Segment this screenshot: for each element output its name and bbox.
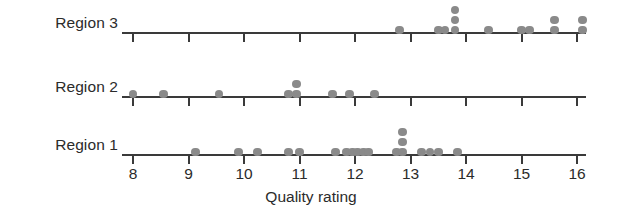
data-point xyxy=(395,26,404,35)
data-point xyxy=(191,148,200,157)
x-tick-label: 10 xyxy=(235,165,252,183)
data-point xyxy=(550,16,559,25)
axis-tick xyxy=(465,97,467,106)
axis-tick xyxy=(465,155,467,164)
axis-tick xyxy=(188,33,190,42)
data-point xyxy=(234,148,243,157)
axis-tick xyxy=(354,97,356,106)
axis-tick xyxy=(354,155,356,164)
data-point xyxy=(451,6,460,15)
data-point xyxy=(345,90,354,99)
x-tick-label: 13 xyxy=(402,165,419,183)
axis-tick xyxy=(576,97,578,106)
data-point xyxy=(451,16,460,25)
x-tick-label: 11 xyxy=(291,165,307,183)
x-tick-label: 16 xyxy=(568,165,585,183)
x-tick-label: 12 xyxy=(346,165,363,183)
axis-tick xyxy=(576,33,578,42)
x-tick-label: 14 xyxy=(457,165,474,183)
data-point xyxy=(292,80,301,89)
axis-tick xyxy=(576,155,578,164)
axis-tick xyxy=(299,97,301,106)
axis-tick xyxy=(410,33,412,42)
data-point xyxy=(398,138,407,147)
axis-tick xyxy=(465,33,467,42)
data-point xyxy=(484,26,493,35)
axis-tick xyxy=(299,33,301,42)
x-tick-label: 9 xyxy=(184,165,193,183)
row-label-region-2: Region 2 xyxy=(18,78,118,96)
axis-tick xyxy=(521,97,523,106)
axis-tick xyxy=(521,33,523,42)
data-point xyxy=(398,148,407,157)
axis-tick xyxy=(410,97,412,106)
row-label-region-3: Region 3 xyxy=(18,14,118,32)
data-point xyxy=(578,16,587,25)
data-point xyxy=(398,128,407,137)
axis-tick xyxy=(132,155,134,164)
data-point xyxy=(370,90,379,99)
axis-tick xyxy=(354,33,356,42)
axis-tick xyxy=(132,97,134,106)
dot-plot-figure: Region 3 Region 2 Region 1 8910111213141… xyxy=(0,0,622,218)
axis-tick xyxy=(299,155,301,164)
axis-tick xyxy=(188,155,190,164)
data-point xyxy=(284,148,293,157)
row-label-region-1: Region 1 xyxy=(18,136,118,154)
x-axis-title: Quality rating xyxy=(0,188,622,206)
x-tick-label: 15 xyxy=(513,165,530,183)
axis-tick xyxy=(243,97,245,106)
axis-tick xyxy=(410,155,412,164)
x-tick-label: 8 xyxy=(129,165,138,183)
axis-tick xyxy=(132,33,134,42)
axis-tick xyxy=(188,97,190,106)
axis-tick xyxy=(243,33,245,42)
data-point xyxy=(434,148,443,157)
axis-tick xyxy=(243,155,245,164)
axis-tick xyxy=(521,155,523,164)
data-point xyxy=(295,148,304,157)
